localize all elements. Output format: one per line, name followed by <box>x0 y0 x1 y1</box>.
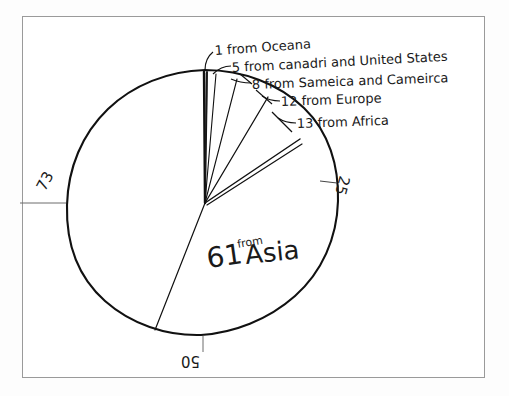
callout-label-africa: 13 from Africa <box>297 113 390 131</box>
leader-line-europe-cross <box>256 90 272 104</box>
leader-line-europe <box>262 96 280 101</box>
callout-label-europe: 12 from Europe <box>281 90 382 109</box>
tick-label-right: 25 <box>331 174 353 197</box>
pie-outline <box>67 70 338 335</box>
slice-divider-asia <box>155 203 205 330</box>
callout-label-americas: 8 from Sameica and Cameirca <box>252 70 449 92</box>
leader-line-oceania <box>205 52 213 70</box>
figure-page: 1 from Oceana 5 from canadri and United … <box>0 0 509 396</box>
center-label-region: Asia <box>243 234 300 270</box>
slice-divider-europe <box>205 97 268 203</box>
callout-label-oceania: 1 from Oceana <box>214 36 311 58</box>
pie-chart-drawing: 1 from Oceana 5 from canadri and United … <box>0 0 509 396</box>
tick-label-left: 73 <box>33 169 58 194</box>
tick-label-bottom: 50 <box>181 352 200 370</box>
